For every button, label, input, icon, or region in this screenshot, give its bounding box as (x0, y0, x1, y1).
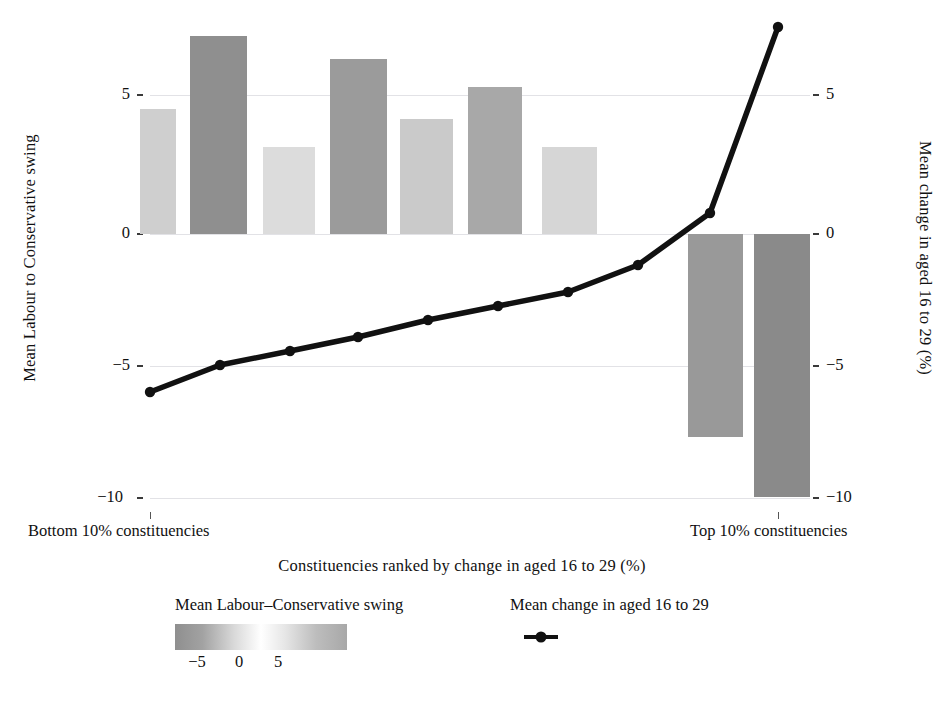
xtick-label-top10: Top 10% constituencies (690, 521, 847, 541)
line-series-path (150, 27, 778, 392)
colorbar-tick-minus5: −5 (177, 652, 217, 672)
legend-bar-title: Mean Labour–Conservative swing (175, 595, 403, 615)
colorbar-tick-5: 5 (258, 652, 298, 672)
xtick-label-bottom10: Bottom 10% constituencies (28, 521, 209, 541)
xtick-right (778, 512, 779, 519)
legend-line-title: Mean change in aged 16 to 29 (510, 595, 709, 615)
legend: Mean Labour–Conservative swing Mean chan… (0, 590, 924, 700)
y-axis-title-right: Mean change in aged 16 to 29 (%) (915, 78, 935, 438)
legend-line-marker (520, 630, 562, 644)
colorbar-tick-0: 0 (219, 652, 259, 672)
x-axis-title: Constituencies ranked by change in aged … (0, 556, 924, 576)
colorbar-swatch (175, 624, 347, 650)
xtick-left (150, 512, 151, 519)
y-axis-title-left: Mean Labour to Conservative swing (20, 78, 40, 438)
line-series-markers (145, 22, 783, 397)
